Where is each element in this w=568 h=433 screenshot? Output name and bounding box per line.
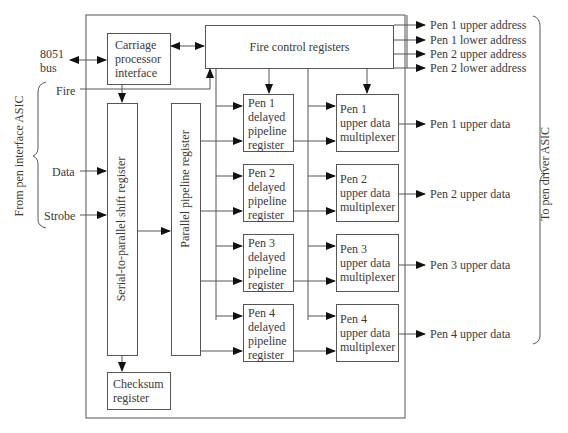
pen3-delayed-pipeline-register: Pen 3delayedpipelineregister	[243, 234, 294, 292]
block-text: processor	[115, 52, 161, 66]
pen2-lower-address-output: Pen 2 lower address	[430, 61, 526, 75]
pen1-lower-address-output: Pen 1 lower address	[430, 33, 526, 47]
fire-control-registers-block: Fire control registers	[205, 25, 394, 69]
pen2-delayed-pipeline-register: Pen 2delayedpipelineregister	[243, 164, 294, 222]
pen4-delayed-pipeline-register: Pen 4delayedpipelineregister	[243, 304, 294, 362]
pen2-upper-data-output: Pen 2 upper data	[430, 187, 510, 201]
pen1-delayed-pipeline-register: Pen 1delayedpipelineregister	[243, 94, 294, 152]
block-text: interface	[115, 66, 161, 80]
data-input-label: Data	[52, 165, 75, 179]
block-text: Fire control registers	[206, 40, 393, 54]
block-text: Carriage	[115, 38, 161, 52]
pen4-upper-data-multiplexer: Pen 4upper datamultiplexer	[336, 304, 399, 362]
checksum-register-block: Checksum register	[107, 372, 171, 410]
block-text: register	[113, 391, 164, 405]
pen1-upper-data-output: Pen 1 upper data	[430, 117, 510, 131]
pen2-upper-data-multiplexer: Pen 2upper datamultiplexer	[336, 164, 399, 222]
bus-label-line2: bus	[40, 61, 64, 75]
bus-label: 8051 bus	[40, 47, 64, 75]
fire-input-label: Fire	[56, 84, 75, 98]
to-pen-driver-asic-label: To pen driver ASIC	[538, 104, 554, 244]
block-text: Checksum	[113, 377, 164, 391]
pen1-upper-data-multiplexer: Pen 1upper datamultiplexer	[336, 94, 399, 152]
strobe-input-label: Strobe	[44, 209, 75, 223]
pen3-upper-data-output: Pen 3 upper data	[430, 258, 510, 272]
pen1-upper-address-output: Pen 1 upper address	[430, 18, 526, 32]
pen2-upper-address-output: Pen 2 upper address	[430, 47, 526, 61]
parallel-pipeline-label: Parallel pipeline register	[178, 109, 194, 269]
pen3-upper-data-multiplexer: Pen 3upper datamultiplexer	[336, 234, 399, 292]
carriage-processor-interface-block: Carriage processor interface	[107, 33, 171, 85]
serial-shift-label: Serial-to-parallel shift register	[114, 129, 130, 329]
from-pen-interface-asic-label: From pen interface ASIC	[12, 76, 28, 236]
bus-label-line1: 8051	[40, 47, 64, 61]
pen4-upper-data-output: Pen 4 upper data	[430, 327, 510, 341]
